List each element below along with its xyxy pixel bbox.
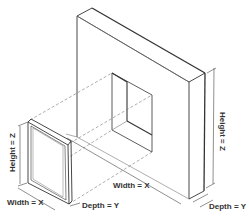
wall-depth-label: Depth = Y xyxy=(209,202,247,211)
window-frame xyxy=(28,119,72,204)
diagram-canvas: Height = Z Width = X Depth = Y Width = X… xyxy=(0,0,249,217)
wall xyxy=(77,8,205,199)
wall-opening xyxy=(112,73,152,152)
window-depth-label: Depth = Y xyxy=(82,201,120,210)
wall-width-label: Width = X xyxy=(113,181,150,190)
window-height-label: Height = Z xyxy=(8,133,17,172)
window-width-label: Width = X xyxy=(7,198,44,207)
wall-height-label: Height = Z xyxy=(218,112,227,151)
